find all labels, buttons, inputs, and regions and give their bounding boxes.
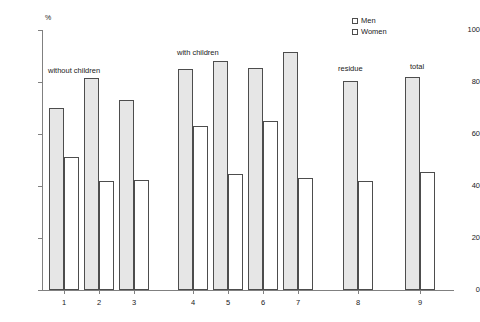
legend: Men Women bbox=[352, 15, 387, 37]
x-tick-mark-6 bbox=[263, 290, 264, 294]
x-tick-mark-9 bbox=[420, 290, 421, 294]
bar-men-4 bbox=[178, 69, 193, 290]
x-tick-label-8: 8 bbox=[346, 298, 370, 307]
bar-men-6 bbox=[248, 68, 263, 290]
bar-men-2 bbox=[84, 78, 99, 290]
x-tick-label-7: 7 bbox=[286, 298, 310, 307]
group-annotation-total: total bbox=[410, 62, 424, 71]
x-tick-label-2: 2 bbox=[87, 298, 111, 307]
bar-men-7 bbox=[283, 52, 298, 290]
bar-women-6 bbox=[263, 121, 278, 290]
bar-group-7 bbox=[283, 30, 313, 290]
y-tick-mark-0 bbox=[38, 290, 42, 291]
bar-group-6 bbox=[248, 30, 278, 290]
x-tick-label-4: 4 bbox=[181, 298, 205, 307]
y-axis-unit-label: % bbox=[45, 14, 51, 21]
x-axis-line bbox=[42, 290, 454, 291]
bar-women-5 bbox=[228, 174, 243, 290]
bar-men-5 bbox=[213, 61, 228, 290]
x-tick-mark-2 bbox=[99, 290, 100, 294]
group-annotation-residue: residue bbox=[338, 64, 363, 73]
y-tick-mark-100 bbox=[38, 30, 42, 31]
y-tick-label-20: 20 bbox=[454, 234, 480, 242]
legend-label-men: Men bbox=[361, 16, 376, 25]
y-tick-label-80: 80 bbox=[454, 78, 480, 86]
legend-item-women: Women bbox=[352, 26, 387, 37]
bar-men-1 bbox=[49, 108, 64, 290]
x-tick-mark-7 bbox=[298, 290, 299, 294]
x-tick-label-9: 9 bbox=[408, 298, 432, 307]
bar-women-8 bbox=[358, 181, 373, 290]
x-tick-mark-4 bbox=[193, 290, 194, 294]
x-tick-label-1: 1 bbox=[52, 298, 76, 307]
legend-swatch-men-icon bbox=[352, 18, 358, 24]
y-tick-mark-40 bbox=[38, 186, 42, 187]
x-tick-mark-3 bbox=[134, 290, 135, 294]
y-tick-label-40: 40 bbox=[454, 182, 480, 190]
bar-women-7 bbox=[298, 178, 313, 290]
x-tick-mark-1 bbox=[64, 290, 65, 294]
y-tick-label-0: 0 bbox=[454, 286, 480, 294]
y-tick-mark-80 bbox=[38, 82, 42, 83]
legend-swatch-women-icon bbox=[352, 29, 358, 35]
x-tick-label-6: 6 bbox=[251, 298, 275, 307]
legend-item-men: Men bbox=[352, 15, 387, 26]
y-tick-label-60: 60 bbox=[454, 130, 480, 138]
x-tick-label-5: 5 bbox=[216, 298, 240, 307]
bar-women-4 bbox=[193, 126, 208, 290]
bar-group-3 bbox=[119, 30, 149, 290]
group-annotation-with-children: with children bbox=[177, 48, 219, 57]
bar-group-5 bbox=[213, 30, 243, 290]
bar-women-9 bbox=[420, 172, 435, 290]
x-tick-mark-5 bbox=[228, 290, 229, 294]
bar-women-3 bbox=[134, 180, 149, 291]
y-tick-mark-20 bbox=[38, 238, 42, 239]
x-tick-mark-8 bbox=[358, 290, 359, 294]
bar-men-3 bbox=[119, 100, 134, 290]
bar-women-2 bbox=[99, 181, 114, 290]
bar-women-1 bbox=[64, 157, 79, 290]
bar-chart: % 020406080100 123456789 without childre… bbox=[0, 0, 480, 322]
y-tick-mark-60 bbox=[38, 134, 42, 135]
x-tick-label-3: 3 bbox=[122, 298, 146, 307]
bar-men-8 bbox=[343, 81, 358, 290]
bar-group-4 bbox=[178, 30, 208, 290]
plot-area bbox=[43, 30, 454, 290]
bar-men-9 bbox=[405, 77, 420, 290]
y-tick-label-100: 100 bbox=[454, 26, 480, 34]
group-annotation-without-children: without children bbox=[48, 66, 100, 75]
legend-label-women: Women bbox=[361, 27, 387, 36]
